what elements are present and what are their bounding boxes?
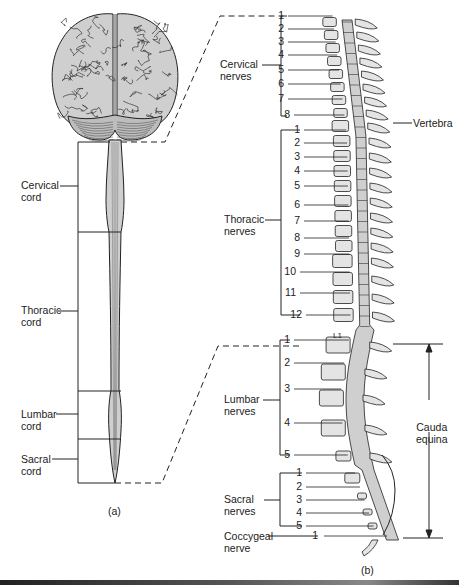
- label-cervical-cord: Cervicalcord: [21, 179, 59, 203]
- nerve-number-0-4: 4: [268, 49, 284, 60]
- nerve-number-3-5: 5: [286, 520, 302, 531]
- svg-text:L1: L1: [333, 331, 342, 340]
- label-sacral-nerves: Sacralnerves: [224, 493, 256, 517]
- nerve-number-1-10: 10: [280, 266, 296, 277]
- nerve-number-1-4: 4: [284, 165, 300, 176]
- nerve-number-1-3: 3: [284, 151, 300, 162]
- nerve-number-0-3: 3: [268, 36, 284, 47]
- nerve-number-2-1: 1: [274, 334, 290, 345]
- spinal-nerves-diagram: L1: [0, 0, 459, 585]
- nerve-number-3-3: 3: [286, 494, 302, 505]
- nerve-number-1-2: 2: [284, 137, 300, 148]
- nerve-number-3-1: 1: [286, 467, 302, 478]
- spinal-cord-a: [106, 140, 124, 483]
- nerve-number-1-5: 5: [284, 180, 300, 191]
- label-vertebra: Vertebra: [413, 117, 453, 129]
- label-sacral-cord: Sacralcord: [21, 453, 51, 477]
- label-lumbar-nerves: Lumbarnerves: [224, 393, 260, 417]
- nerve-number-1-8: 8: [284, 232, 300, 243]
- nerve-number-3-4: 4: [286, 507, 302, 518]
- nerve-number-4-1: 1: [302, 530, 318, 541]
- nerve-number-0-2: 2: [268, 23, 284, 34]
- label-cervical-nerves: Cervicalnerves: [220, 58, 258, 82]
- label-thoracic-nerves: Thoracicnerves: [224, 213, 264, 237]
- label-lumbar-cord: Lumbarcord: [21, 408, 57, 432]
- nerve-number-1-7: 7: [284, 215, 300, 226]
- nerve-number-0-5: 5: [268, 64, 284, 75]
- brain: [52, 14, 178, 124]
- nerve-number-2-5: 5: [274, 449, 290, 460]
- nerve-number-1-1: 1: [284, 124, 300, 135]
- vertebral-column: L1: [319, 18, 398, 557]
- nerve-number-2-3: 3: [274, 383, 290, 394]
- label-coccygeal-nerve: Coccygealnerve: [224, 530, 273, 554]
- cerebellum: [68, 115, 162, 141]
- page-bottom-rule: [0, 580, 459, 585]
- nerve-number-1-9: 9: [284, 248, 300, 259]
- nerve-number-2-4: 4: [274, 417, 290, 428]
- nerve-number-1-12: 12: [286, 309, 302, 320]
- caption-panel-b: (b): [361, 564, 374, 576]
- caption-panel-a: (a): [108, 505, 121, 517]
- nerve-number-1-11: 11: [280, 287, 296, 298]
- nerve-number-1-6: 6: [284, 199, 300, 210]
- label-thoracic-cord: Thoraciccord: [21, 304, 61, 328]
- nerve-number-0-7: 7: [268, 93, 284, 104]
- nerve-number-0-8: 8: [274, 109, 290, 120]
- nerve-number-3-2: 2: [286, 481, 302, 492]
- label-cauda-equina: Caudaequina: [416, 421, 448, 445]
- nerve-number-2-2: 2: [274, 357, 290, 368]
- nerve-number-0-6: 6: [268, 78, 284, 89]
- nerve-number-0-1: 1: [268, 10, 284, 21]
